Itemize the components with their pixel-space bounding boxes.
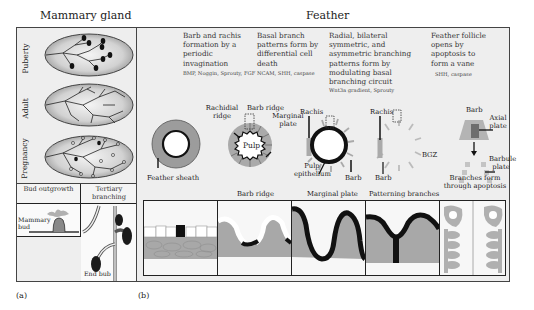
- stage-label-pregnancy: Pregnancy: [20, 138, 29, 178]
- feather-column-2: Basal branch patterns form by differenti…: [257, 31, 319, 77]
- feather-panel: Barb and rachis formation by a periodic …: [136, 27, 510, 282]
- cell-section-patterning-branches: [366, 201, 440, 275]
- cell-section-marginal-plate: [292, 201, 366, 275]
- column-3-genes: Wnt3a gradient, Sprouty: [329, 87, 411, 94]
- feather-column-3: Radial, bilateral symmetric, and asymmet…: [329, 31, 411, 94]
- barb-label-2: Barb: [375, 174, 392, 182]
- cell-section-apoptosis: [440, 201, 506, 275]
- feather-column-1: Barb and rachis formation by a periodic …: [183, 31, 259, 77]
- barb-label-1: Barb: [345, 174, 362, 182]
- mammary-gland-ellipses: [43, 31, 135, 183]
- panel-label-b: (b): [138, 291, 149, 300]
- feather-sheath-label: Feather sheath: [147, 174, 199, 182]
- strip-label-marginal-plate: Marginal plate: [307, 190, 358, 198]
- rachidial-ridge-label: Rachidial ridge: [205, 104, 239, 120]
- column-4-description: Feather follicle opens by apoptosis to f…: [431, 31, 491, 68]
- barb-label-3: Barb: [466, 106, 483, 114]
- column-2-description: Basal branch patterns form by differenti…: [257, 31, 319, 68]
- bud-outgrowth-header-cell: Bud outgrowth: [17, 184, 81, 204]
- bud-outgrowth-header: Bud outgrowth: [17, 184, 80, 193]
- cell-section-placode: [144, 201, 218, 275]
- bud-outgrowth-cell: Mammary bud: [17, 204, 81, 237]
- pulp-epithelium-label: Pulp epithelium: [294, 162, 330, 178]
- strip-label-barb-ridge: Barb ridge: [237, 190, 274, 198]
- barb-ridge-label: Barb ridge: [247, 104, 284, 112]
- end-bud-label: End bub: [84, 270, 111, 277]
- feather-title: Feather: [306, 9, 349, 22]
- feather-cell-strip: [143, 200, 506, 276]
- column-2-genes: NCAM, SHH, caspase: [257, 70, 319, 77]
- axial-plate-label: Axial plate: [487, 114, 509, 130]
- column-4-genes: SHH, caspase: [431, 71, 491, 78]
- tertiary-branching-header: Tertiary branching: [81, 184, 137, 201]
- strip-label-patterning-branches: Patterning branches: [369, 190, 439, 198]
- stage-label-puberty: Puberty: [21, 44, 30, 74]
- bgz-label: BGZ: [422, 151, 437, 159]
- mammary-gland-title: Mammary gland: [40, 9, 131, 22]
- rachis-label-2: Rachis: [370, 108, 393, 116]
- tertiary-branching-header-cell: Tertiary branching: [81, 184, 137, 204]
- feather-column-4: Feather follicle opens by apoptosis to f…: [431, 31, 491, 78]
- column-3-description: Radial, bilateral symmetric, and asymmet…: [329, 31, 411, 86]
- column-1-description: Barb and rachis formation by a periodic …: [183, 31, 259, 68]
- panel-label-a: (a): [16, 291, 27, 300]
- cell-section-barb-ridge: [218, 201, 292, 275]
- column-1-genes: BMP, Noggin, Sprouty, FGF: [183, 70, 259, 77]
- mammary-branching-panel: Bud outgrowth Tertiary branching Mammary…: [16, 184, 137, 282]
- mammary-stages-panel: Puberty Adult Pregnancy: [16, 27, 137, 184]
- tertiary-branching-cell: End bub: [81, 204, 137, 281]
- rachis-label-1: Rachis: [300, 108, 323, 116]
- barbule-plate-label: Barbule plate: [489, 155, 513, 171]
- pulp-label: Pulp: [243, 141, 260, 150]
- stage-label-adult: Adult: [21, 98, 30, 118]
- mammary-bud-label: Mammary bud: [18, 216, 46, 230]
- branches-apoptosis-label: Branches form through apoptosis: [443, 174, 507, 190]
